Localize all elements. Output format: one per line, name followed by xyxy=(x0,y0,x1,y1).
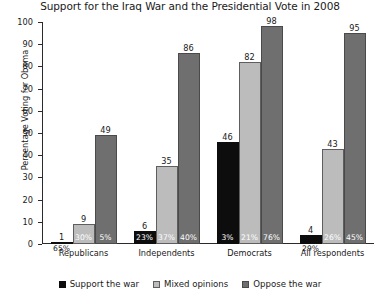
bar-value-label: 82 xyxy=(244,52,254,62)
legend-item[interactable]: Mixed opinions xyxy=(153,279,228,289)
bar-value-label: 86 xyxy=(183,43,193,53)
bar-share-label: 45% xyxy=(346,233,363,242)
y-axis-tick xyxy=(38,200,42,201)
chart-title: Support for the Iraq War and the Preside… xyxy=(0,0,380,12)
y-axis-tick-label: 20 xyxy=(3,194,33,204)
y-axis-tick xyxy=(38,222,42,223)
bar-share-label: 40% xyxy=(180,233,197,242)
y-axis-tick-label: 50 xyxy=(3,128,33,138)
y-axis-tick xyxy=(38,155,42,156)
bar[interactable]: 8221% xyxy=(239,62,261,244)
y-axis-tick-label: 70 xyxy=(3,83,33,93)
bar-share-label: 26% xyxy=(324,233,341,242)
legend-item[interactable]: Oppose the war xyxy=(242,279,321,289)
y-axis-tick xyxy=(38,244,42,245)
bar-group: 463%8221%9876% xyxy=(217,22,283,244)
y-axis-tick-label: 100 xyxy=(3,17,33,27)
bar-value-label: 98 xyxy=(266,16,276,26)
bar-value-label: 4 xyxy=(308,225,313,235)
y-axis-tick-label: 10 xyxy=(3,216,33,226)
y-axis-tick xyxy=(38,177,42,178)
legend-label: Mixed opinions xyxy=(164,279,228,289)
bar-value-label: 6 xyxy=(142,221,147,231)
chart-legend: Support the warMixed opinionsOppose the … xyxy=(0,279,380,289)
y-axis-tick-label: 80 xyxy=(3,61,33,71)
bar-share-label: 76% xyxy=(263,233,280,242)
x-axis-category-label: All respondents xyxy=(291,248,374,258)
bar-value-label: 1 xyxy=(59,232,64,242)
bar[interactable]: 8640% xyxy=(178,53,200,244)
x-axis-category-label: Democrats xyxy=(208,248,291,258)
y-axis-tick xyxy=(38,22,42,23)
y-axis-tick xyxy=(38,111,42,112)
bar-value-label: 49 xyxy=(100,125,110,135)
bar-value-label: 95 xyxy=(349,23,359,33)
x-axis-category-label: Republicans xyxy=(42,248,125,258)
bar-group: 165%930%495% xyxy=(51,22,117,244)
y-axis-tick xyxy=(38,133,42,134)
bar[interactable]: 623% xyxy=(134,231,156,244)
bar[interactable]: 495% xyxy=(95,135,117,244)
bar-value-label: 35 xyxy=(161,156,171,166)
bar-share-label: 37% xyxy=(158,233,175,242)
plot-area: 0102030405060708090100 165%930%495%623%3… xyxy=(42,22,374,244)
bar-value-label: 9 xyxy=(81,214,86,224)
y-axis-tick xyxy=(38,44,42,45)
y-axis-tick-label: 0 xyxy=(3,239,33,249)
bar[interactable]: 3537% xyxy=(156,166,178,244)
y-axis-tick-label: 90 xyxy=(3,39,33,49)
bar-group: 623%3537%8640% xyxy=(134,22,200,244)
bar[interactable]: 9545% xyxy=(344,33,366,244)
legend-item[interactable]: Support the war xyxy=(59,279,139,289)
y-axis-tick-label: 30 xyxy=(3,172,33,182)
bar-value-label: 46 xyxy=(222,132,232,142)
y-axis-tick xyxy=(38,66,42,67)
legend-swatch-icon xyxy=(153,281,160,288)
bar-share-label: 23% xyxy=(136,233,153,242)
bar[interactable]: 9876% xyxy=(261,26,283,244)
legend-label: Oppose the war xyxy=(253,279,321,289)
bar-share-label: 30% xyxy=(75,233,92,242)
bar[interactable]: 4326% xyxy=(322,149,344,244)
y-axis-tick-label: 60 xyxy=(3,105,33,115)
bar-share-label: 5% xyxy=(99,233,111,242)
legend-swatch-icon xyxy=(242,281,249,288)
bar-group: 429%4326%9545% xyxy=(300,22,366,244)
bar-value-label: 43 xyxy=(327,139,337,149)
y-axis-tick-label: 40 xyxy=(3,150,33,160)
legend-swatch-icon xyxy=(59,281,66,288)
x-axis-category-label: Independents xyxy=(125,248,208,258)
bar[interactable]: 930% xyxy=(73,224,95,244)
bar-chart: Support for the Iraq War and the Preside… xyxy=(0,0,380,296)
bar[interactable]: 165% xyxy=(51,242,73,244)
y-axis-line xyxy=(42,22,43,244)
bar[interactable]: 429% xyxy=(300,235,322,244)
bar[interactable]: 463% xyxy=(217,142,239,244)
y-axis-tick xyxy=(38,89,42,90)
legend-label: Support the war xyxy=(70,279,139,289)
bar-share-label: 21% xyxy=(241,233,258,242)
bar-share-label: 3% xyxy=(221,233,233,242)
